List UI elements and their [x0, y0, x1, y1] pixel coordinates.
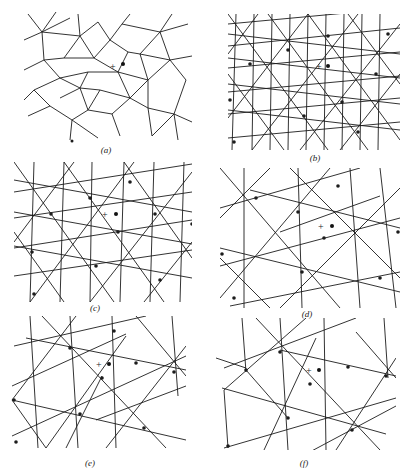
- tiling-a: [20, 10, 200, 145]
- panel-c: +: [14, 162, 192, 302]
- tiling-b: [228, 14, 400, 150]
- dot-marker: [330, 224, 334, 228]
- panel-b: +: [228, 14, 400, 150]
- panel-label-f: (f): [289, 458, 319, 468]
- tiling-e: [6, 316, 186, 448]
- dot-marker: [317, 368, 321, 372]
- tiling-d: [220, 168, 400, 308]
- dot-marker: [114, 212, 118, 216]
- plus-marker: +: [318, 222, 324, 232]
- dot-marker: [121, 62, 125, 66]
- panel-label-a: (a): [91, 145, 121, 155]
- panel-f: +: [216, 318, 396, 450]
- dot-marker: [326, 64, 330, 68]
- plus-marker: +: [102, 210, 108, 220]
- tiling-c: [14, 162, 192, 302]
- dot-marker: [107, 362, 111, 366]
- plus-marker: +: [316, 62, 322, 72]
- panel-label-e: (e): [75, 458, 105, 468]
- panel-label-c: (c): [80, 303, 110, 313]
- panel-a: +: [20, 10, 200, 145]
- plus-marker: +: [306, 366, 312, 376]
- panel-e: +: [6, 316, 186, 448]
- panel-d: +: [220, 168, 400, 308]
- plus-marker: +: [110, 62, 116, 72]
- panel-label-b: (b): [300, 153, 330, 163]
- plus-marker: +: [96, 360, 102, 370]
- tiling-f: [216, 318, 396, 450]
